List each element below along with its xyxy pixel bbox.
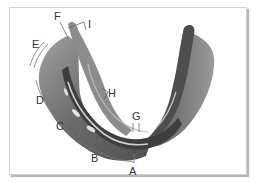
label-B: B (91, 152, 98, 164)
label-C: C (56, 120, 64, 132)
label-G: G (132, 110, 141, 122)
label-E: E (32, 38, 39, 50)
label-I: I (88, 18, 91, 30)
leader-F (60, 22, 68, 38)
label-F: F (54, 10, 61, 22)
mouthguard-illustration: F I E D C B A H G (0, 0, 253, 182)
label-A: A (129, 165, 137, 177)
label-H: H (108, 87, 116, 99)
label-D: D (36, 94, 44, 106)
